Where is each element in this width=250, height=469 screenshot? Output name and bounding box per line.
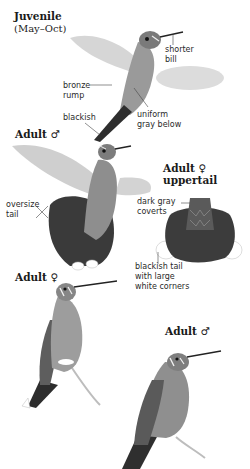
illustrations	[0, 0, 250, 469]
juvenile-season: (May–Oct)	[14, 23, 66, 34]
label-blackish-tail: blackish tail with large white corners	[135, 262, 189, 292]
label-oversize-tail: oversize tail	[6, 200, 39, 220]
adult-female-perched-heading: Adult ♀	[15, 271, 58, 283]
juvenile-heading: Juvenile (May–Oct)	[14, 10, 66, 35]
label-shorter-bill: shorter bill	[165, 45, 194, 65]
label-bronze-rump: bronze rump	[63, 81, 90, 101]
female-uppertail-subtitle: uppertail	[163, 174, 217, 186]
female-uppertail-title: Adult ♀	[163, 162, 206, 174]
label-uniform-gray-below: uniform gray below	[137, 110, 181, 130]
field-guide-plate: Juvenile (May–Oct) Adult ♂ Adult ♀ upper…	[0, 0, 250, 469]
juvenile-title: Juvenile	[14, 10, 62, 22]
female-uppertail-heading: Adult ♀ uppertail	[163, 162, 217, 186]
adult-male-perched-heading: Adult ♂	[165, 325, 210, 337]
label-dark-gray-coverts: dark gray coverts	[137, 197, 175, 217]
label-blackish: blackish	[63, 113, 96, 123]
adult-male-flying-heading: Adult ♂	[15, 128, 60, 140]
adult-male-perched-illustration	[122, 351, 221, 469]
adult-female-perched-illustration	[22, 281, 117, 408]
